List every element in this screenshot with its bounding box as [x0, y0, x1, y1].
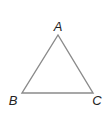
vertex-label-a: A [53, 19, 63, 34]
vertex-label-b: B [9, 93, 18, 108]
vertex-label-c: C [92, 93, 102, 108]
triangle-abc [22, 35, 93, 93]
triangle-diagram: A B C [0, 0, 107, 118]
